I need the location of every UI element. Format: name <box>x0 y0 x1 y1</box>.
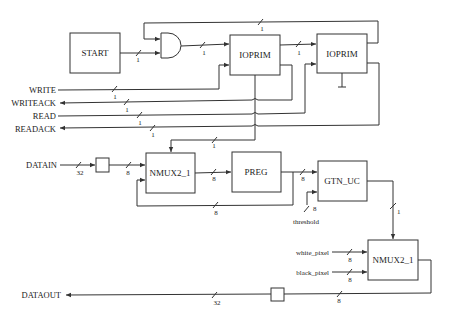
svg-text:8: 8 <box>348 256 352 264</box>
nmux-top-block: NMUX2_1 <box>146 153 195 193</box>
preg-block: PREG <box>232 152 281 192</box>
svg-text:1: 1 <box>260 25 264 33</box>
svg-text:1: 1 <box>125 106 129 114</box>
terminator-icon <box>338 73 346 87</box>
svg-text:1: 1 <box>212 142 216 150</box>
dataout-register-icon <box>271 288 284 301</box>
start-label: START <box>81 48 109 58</box>
svg-text:1: 1 <box>297 49 301 57</box>
svg-text:8: 8 <box>301 175 305 183</box>
wire-datain: DATAIN 32 8 <box>26 158 145 177</box>
svg-text:1: 1 <box>397 208 401 216</box>
wire-and-to-ioprim1: 1 <box>181 42 229 57</box>
writeack-label: WRITEACK <box>11 98 57 108</box>
black-pixel-label: black_pixel <box>296 269 329 277</box>
wire-select-top: 1 <box>171 75 255 152</box>
threshold-label: threshold <box>293 218 320 226</box>
wire-start-to-and: 1 <box>120 50 160 64</box>
svg-text:8: 8 <box>337 297 341 305</box>
ioprim2-label: IOPRIM <box>326 49 358 59</box>
wire-gtn-out: 1 <box>367 181 401 239</box>
write-label: WRITE <box>29 85 56 95</box>
svg-text:8: 8 <box>212 175 216 183</box>
datain-register-icon <box>96 158 109 172</box>
wire-write: WRITE 1 <box>29 65 229 101</box>
svg-text:32: 32 <box>214 299 222 307</box>
and-gate-icon <box>161 33 181 58</box>
read-label: READ <box>33 111 56 121</box>
dataout-label: DATAOUT <box>22 290 62 300</box>
svg-text:8: 8 <box>313 205 317 213</box>
ioprim-block-2: IOPRIM <box>317 34 367 87</box>
nmux-bottom-label: NMUX2_1 <box>372 255 413 265</box>
gtn-uc-label: GTN_UC <box>324 176 360 186</box>
nmux-top-label: NMUX2_1 <box>149 168 190 178</box>
svg-text:8: 8 <box>348 276 352 284</box>
svg-text:1: 1 <box>151 131 155 139</box>
svg-text:1: 1 <box>138 119 142 127</box>
gtn-uc-block: GTN_UC <box>318 161 367 201</box>
nmux-bottom-block: NMUX2_1 <box>368 240 418 280</box>
datain-label: DATAIN <box>26 160 57 170</box>
ioprim1-label: IOPRIM <box>239 50 271 60</box>
ioprim-block-1: IOPRIM <box>230 35 280 75</box>
start-block: START <box>70 33 120 73</box>
svg-text:32: 32 <box>77 169 85 177</box>
svg-text:1: 1 <box>113 93 117 101</box>
preg-label: PREG <box>244 167 268 177</box>
block-diagram: START 1 1 1 IOPRIM 1 IOPRIM <box>0 0 451 323</box>
svg-text:8: 8 <box>126 169 130 177</box>
wire-white-pixel: white_pixel 8 <box>296 249 367 264</box>
readack-label: READACK <box>15 124 57 134</box>
wire-ioprim-link: 1 <box>280 41 316 57</box>
svg-text:8: 8 <box>214 209 218 217</box>
wire-threshold: 8 threshold <box>293 192 320 226</box>
wire-nmux-to-preg: 8 <box>195 169 231 183</box>
white-pixel-label: white_pixel <box>296 249 329 257</box>
wire-black-pixel: black_pixel 8 <box>296 269 367 284</box>
svg-text:1: 1 <box>202 49 206 57</box>
svg-text:1: 1 <box>136 56 140 64</box>
